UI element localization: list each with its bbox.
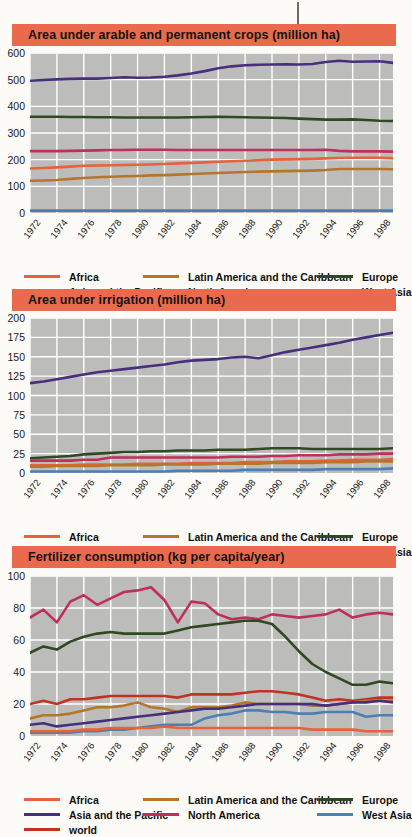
y-tick-label: 500 <box>0 74 25 86</box>
chart-title-bar-irrigation: Area under irrigation (million ha) <box>12 289 396 311</box>
chart-title-irrigation: Area under irrigation (million ha) <box>12 293 225 307</box>
legend-item-africa[interactable]: Africa <box>24 792 99 807</box>
legend-label: world <box>69 824 97 836</box>
y-tick-label: 150 <box>0 351 25 363</box>
legend-item-world[interactable]: world <box>24 822 97 837</box>
legend-swatch-icon <box>24 828 60 832</box>
y-tick-label: 60 <box>0 634 25 646</box>
legend-label: Europe <box>362 794 398 806</box>
y-tick-label: 20 <box>0 698 25 710</box>
legend-swatch-icon <box>143 275 179 279</box>
legend-item-europe[interactable]: Europe <box>317 269 398 284</box>
legend-row: Asia and the PacificNorth AmericaWest As… <box>0 807 409 822</box>
legend-swatch-icon <box>24 813 60 817</box>
chart-title-arable: Area under arable and permanent crops (m… <box>12 28 340 42</box>
chart-panel-fertilizer: Fertilizer consumption (kg per capita/ye… <box>0 546 409 805</box>
legend-item-europe[interactable]: Europe <box>317 792 398 807</box>
legend-swatch-icon <box>317 798 353 802</box>
plot-canvas-irrigation <box>30 318 393 473</box>
chart-title-fertilizer: Fertilizer consumption (kg per capita/ye… <box>12 550 284 564</box>
y-tick-label: 40 <box>0 666 25 678</box>
legend-swatch-icon <box>317 275 353 279</box>
legend-item-west-asia[interactable]: West Asia <box>317 807 412 822</box>
legend-swatch-icon <box>24 535 60 539</box>
y-tick-label: 200 <box>0 154 25 166</box>
legend-label: Africa <box>69 794 99 806</box>
legend-swatch-icon <box>143 535 179 539</box>
legend-item-north-america[interactable]: North America <box>143 807 260 822</box>
y-tick-label: 175 <box>0 331 25 343</box>
plot-canvas-arable <box>30 53 393 213</box>
legend-row: AfricaLatin America and the CaribbeanEur… <box>0 269 409 284</box>
legend-row: world <box>0 822 409 837</box>
legend-row: AfricaLatin America and the CaribbeanEur… <box>0 792 409 807</box>
y-tick-label: 50 <box>0 428 25 440</box>
legend-swatch-icon <box>317 535 353 539</box>
legend-swatch-icon <box>143 813 179 817</box>
legend-label: North America <box>188 809 260 821</box>
legend-item-europe[interactable]: Europe <box>317 529 398 544</box>
legend-swatch-icon <box>24 798 60 802</box>
series-line-north-america <box>30 150 393 152</box>
y-tick-label: 300 <box>0 127 25 139</box>
legend-swatch-icon <box>317 813 353 817</box>
legend-label: Africa <box>69 531 99 543</box>
legend-label: Africa <box>69 271 99 283</box>
legend-label: Europe <box>362 531 398 543</box>
legend-row: AfricaLatin America and the CaribbeanEur… <box>0 529 409 544</box>
y-tick-label: 100 <box>0 180 25 192</box>
legend-swatch-icon <box>143 798 179 802</box>
y-tick-label: 0 <box>0 467 25 479</box>
y-tick-label: 100 <box>0 390 25 402</box>
page-edge-mark <box>297 2 299 24</box>
chart-title-bar-fertilizer: Fertilizer consumption (kg per capita/ye… <box>12 546 396 568</box>
y-tick-label: 0 <box>0 207 25 219</box>
y-tick-label: 75 <box>0 409 25 421</box>
legend-item-africa[interactable]: Africa <box>24 529 99 544</box>
y-tick-label: 125 <box>0 370 25 382</box>
y-tick-label: 600 <box>0 47 25 59</box>
y-tick-label: 25 <box>0 448 25 460</box>
y-tick-label: 200 <box>0 312 25 324</box>
chart-panel-arable: Area under arable and permanent crops (m… <box>0 24 409 282</box>
chart-legend-fertilizer: AfricaLatin America and the CaribbeanEur… <box>0 792 409 837</box>
legend-swatch-icon <box>24 275 60 279</box>
plot-canvas-fertilizer <box>30 576 393 736</box>
chart-title-bar-arable: Area under arable and permanent crops (m… <box>12 24 396 46</box>
legend-label: Europe <box>362 271 398 283</box>
legend-label: West Asia <box>362 809 412 821</box>
y-tick-label: 80 <box>0 602 25 614</box>
y-tick-label: 100 <box>0 570 25 582</box>
y-tick-label: 400 <box>0 100 25 112</box>
y-tick-label: 0 <box>0 730 25 742</box>
legend-item-africa[interactable]: Africa <box>24 269 99 284</box>
chart-panel-irrigation: Area under irrigation (million ha) 02550… <box>0 289 409 539</box>
